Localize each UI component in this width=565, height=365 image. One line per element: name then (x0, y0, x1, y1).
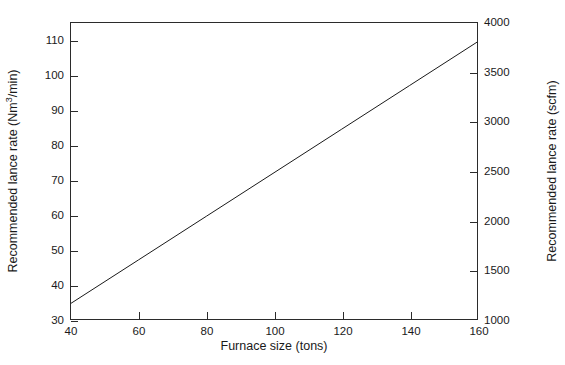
y-axis-left-tick-label: 100 (45, 70, 64, 82)
chart-figure: 30405060708090100110 1000150020002500300… (0, 0, 565, 365)
y-axis-left-title-superscript: 3 (4, 97, 14, 102)
y-axis-right-tick-label: 1500 (484, 266, 510, 278)
x-axis-tick-label: 160 (469, 326, 488, 338)
x-axis-tick-label: 140 (401, 326, 420, 338)
x-axis-tick-label: 80 (201, 326, 214, 338)
y-axis-right-tick-label: 2500 (484, 166, 510, 178)
y-axis-right-tick-label: 4000 (484, 17, 510, 29)
y-axis-left-tick-label: 30 (51, 315, 64, 327)
y-axis-right-title: Recommended lance rate (scfm) (546, 80, 559, 261)
y-axis-left-title-post: /min) (6, 69, 20, 97)
y-axis-left-title: Recommended lance rate (Nm3/min) (7, 69, 20, 272)
y-axis-right-tick-label: 3500 (484, 67, 510, 79)
y-axis-left-title-pre: Recommended lance rate (Nm (6, 102, 20, 272)
x-axis-title: Furnace size (tons) (221, 340, 328, 353)
y-axis-right-tick-label: 2000 (484, 216, 510, 228)
y-axis-left-tick (71, 321, 78, 322)
y-axis-left-tick-label: 80 (51, 140, 64, 152)
data-series-line (71, 23, 477, 319)
y-axis-left-tick-label: 110 (46, 35, 64, 47)
x-axis-tick-label: 100 (265, 326, 284, 338)
x-axis-tick-label: 60 (133, 326, 146, 338)
plot-area: 30405060708090100110 1000150020002500300… (70, 22, 478, 320)
y-axis-left-tick-label: 70 (51, 175, 64, 187)
y-axis-right-tick-label: 3000 (484, 117, 510, 129)
y-axis-left-tick-label: 40 (51, 280, 64, 292)
x-axis-tick-label: 40 (65, 326, 78, 338)
y-axis-left-tick-label: 50 (51, 245, 64, 257)
y-axis-left-tick-label: 60 (51, 210, 64, 222)
x-axis-tick-label: 120 (333, 326, 352, 338)
y-axis-left-tick-label: 90 (51, 105, 64, 117)
